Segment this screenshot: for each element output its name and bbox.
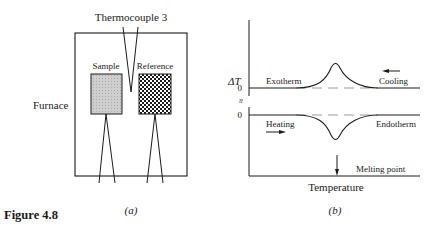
figure-canvas: Thermocouple 3 Sample Reference Furnace … [0, 0, 431, 230]
panel-b: ≈ ΔT 0 0 Exotherm Cooling Heating Endoth… [227, 20, 420, 217]
thermocouple-3 [123, 27, 138, 92]
exotherm-label: Exotherm [266, 76, 302, 86]
reference-crucible [139, 74, 171, 114]
cooling-label: Cooling [379, 76, 409, 86]
panel-a: Thermocouple 3 Sample Reference Furnace … [33, 11, 187, 217]
melting-point-label: Melting point [356, 164, 406, 174]
thermocouple-label: Thermocouple 3 [95, 11, 168, 23]
panel-a-sublabel: (a) [125, 204, 138, 217]
zero-lower-label: 0 [238, 110, 243, 120]
sample-thermocouple [99, 114, 115, 183]
heating-arrow-icon [266, 130, 286, 134]
sample-crucible [91, 74, 122, 114]
melting-point-arrow-icon [335, 155, 339, 176]
panel-b-sublabel: (b) [329, 204, 342, 217]
endotherm-label: Endotherm [376, 119, 416, 129]
zero-upper-label: 0 [238, 83, 243, 93]
figure-caption: Figure 4.8 [4, 208, 58, 223]
sample-label: Sample [93, 61, 120, 71]
furnace-label: Furnace [33, 99, 69, 111]
x-axis-label: Temperature [308, 181, 364, 193]
cooling-arrow-icon [382, 69, 400, 73]
reference-thermocouple [147, 114, 163, 183]
axis-break-symbol: ≈ [236, 99, 246, 104]
reference-label: Reference [137, 61, 173, 71]
heating-label: Heating [266, 119, 295, 129]
